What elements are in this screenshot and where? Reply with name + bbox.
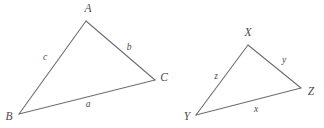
triangles-canvas — [0, 0, 324, 128]
segment-ac — [86, 21, 155, 80]
vertex-label-b: B — [5, 111, 12, 123]
vertex-label-x: X — [244, 27, 251, 39]
vertex-label-z: Z — [308, 86, 314, 98]
vertex-label-c: C — [160, 72, 168, 84]
side-label-x: x — [254, 105, 258, 115]
segment-yz — [196, 88, 301, 115]
vertex-label-a: A — [84, 3, 91, 15]
side-label-c: c — [43, 53, 47, 63]
side-label-b: b — [127, 43, 132, 53]
segment-xz — [248, 45, 301, 88]
side-label-a: a — [86, 100, 91, 110]
vertex-label-y: Y — [184, 111, 190, 123]
side-label-y: y — [282, 56, 286, 66]
side-label-z: z — [214, 72, 218, 82]
segment-xy — [196, 45, 248, 115]
geometry-figure: A B C a b c X Y Z x y z — [0, 0, 324, 128]
